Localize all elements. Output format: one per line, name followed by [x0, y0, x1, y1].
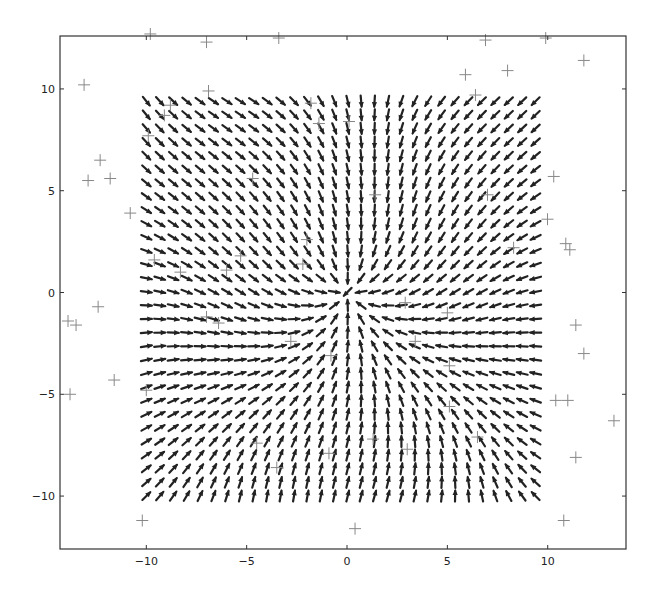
- x-tick-label: 5: [444, 555, 451, 568]
- plus-marker: [562, 394, 574, 406]
- plus-marker: [271, 462, 283, 474]
- plus-marker: [78, 79, 90, 91]
- x-tick-label: −5: [239, 555, 255, 568]
- plus-marker: [247, 173, 259, 185]
- plus-marker: [64, 388, 76, 400]
- plus-marker: [273, 32, 285, 44]
- plus-marker: [542, 213, 554, 225]
- plus-marker: [251, 437, 263, 449]
- quiver-arrows: [141, 96, 541, 502]
- quiver-plot-figure: −10−50510 −10−50510: [0, 0, 655, 589]
- plus-marker: [550, 394, 562, 406]
- y-tick-label: −5: [39, 388, 55, 401]
- plus-marker: [558, 515, 570, 527]
- plus-marker: [441, 307, 453, 319]
- plus-marker: [104, 173, 116, 185]
- x-tick-label: 0: [344, 555, 351, 568]
- plus-marker: [502, 65, 514, 77]
- plus-marker: [108, 374, 120, 386]
- y-axis-ticks: −10−50510: [32, 83, 626, 503]
- plus-marker: [578, 348, 590, 360]
- plus-marker: [548, 170, 560, 182]
- plus-marker: [82, 175, 94, 187]
- plus-marker: [540, 32, 552, 44]
- chart-canvas: −10−50510 −10−50510: [0, 0, 655, 589]
- plus-marker: [203, 85, 215, 97]
- plus-marker: [124, 207, 136, 219]
- plus-marker: [608, 415, 620, 427]
- y-tick-label: 5: [48, 185, 55, 198]
- y-tick-label: 10: [41, 83, 55, 96]
- plus-marker: [201, 36, 213, 48]
- plus-marker: [92, 301, 104, 313]
- plus-marker: [570, 451, 582, 463]
- y-tick-label: 0: [48, 287, 55, 300]
- x-tick-label: 10: [541, 555, 555, 568]
- plus-marker: [343, 116, 355, 128]
- plus-marker: [570, 319, 582, 331]
- plus-marker: [136, 515, 148, 527]
- x-tick-label: −10: [135, 555, 158, 568]
- plus-marker: [301, 234, 313, 246]
- plus-marker: [349, 523, 361, 535]
- plus-marker: [578, 54, 590, 66]
- y-tick-label: −10: [32, 490, 55, 503]
- plus-marker: [369, 189, 381, 201]
- plus-marker: [459, 69, 471, 81]
- plus-marker: [94, 154, 106, 166]
- plus-marker: [367, 433, 379, 445]
- plus-marker: [508, 242, 520, 254]
